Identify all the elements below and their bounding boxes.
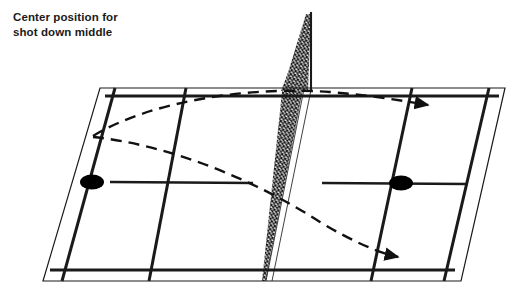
badminton-court-diagram — [0, 0, 527, 307]
shot-trajectories — [93, 91, 428, 257]
player-marker-right — [389, 176, 413, 191]
player-marker-left — [80, 175, 104, 190]
net-group — [262, 12, 311, 281]
shot-path-lower — [93, 137, 398, 257]
shot-path-upper — [93, 91, 428, 136]
left-centre-service-line — [110, 182, 253, 183]
left-short-service-line — [149, 88, 186, 281]
